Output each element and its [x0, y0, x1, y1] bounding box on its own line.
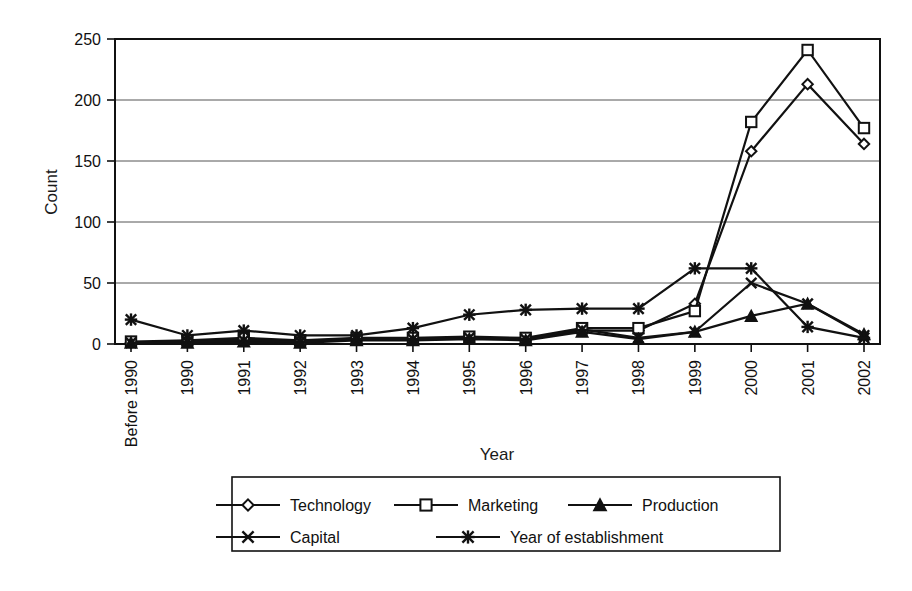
data-point-star-asterisk [745, 262, 757, 274]
x-tick-label: Before 1990 [123, 360, 140, 447]
data-point-star-asterisk [632, 302, 644, 314]
data-point-square-open [420, 499, 431, 510]
gridlines [115, 100, 880, 283]
y-tick-label: 0 [92, 336, 101, 353]
y-tick-label: 250 [74, 31, 101, 48]
data-point-star-asterisk [689, 262, 701, 274]
series-year-of-establishment [125, 262, 870, 344]
legend-label: Production [642, 497, 719, 514]
data-point-square-open [746, 117, 756, 127]
y-tick-label: 50 [83, 275, 101, 292]
legend-label: Capital [290, 529, 340, 546]
line-chart: 050100150200250 Before 19901990199119921… [0, 0, 912, 591]
y-tick-label: 150 [74, 153, 101, 170]
data-point-square-open [690, 306, 700, 316]
x-tick-label: 1992 [292, 360, 309, 396]
y-axis-title: Count [42, 169, 61, 215]
x-tick-label: 1998 [630, 360, 647, 396]
x-tick-label: 1999 [687, 360, 704, 396]
series-marketing [126, 45, 869, 347]
data-point-star-asterisk [801, 321, 813, 333]
data-point-star-asterisk [461, 530, 474, 543]
x-axis-title: Year [480, 445, 515, 464]
data-point-star-asterisk [181, 329, 193, 341]
series-path [131, 50, 864, 342]
x-tick-label: 1990 [179, 360, 196, 396]
data-point-star-asterisk [519, 304, 531, 316]
x-tick-label: 1995 [461, 360, 478, 396]
data-point-square-open [859, 123, 869, 133]
data-point-star-asterisk [858, 332, 870, 344]
x-tick-label: 1997 [574, 360, 591, 396]
x-tick-label: 2001 [800, 360, 817, 396]
data-point-star-asterisk [463, 309, 475, 321]
legend-label: Year of establishment [510, 529, 664, 546]
y-axis: 050100150200250 [74, 31, 115, 353]
data-point-star-asterisk [350, 329, 362, 341]
y-tick-label: 100 [74, 214, 101, 231]
legend-label: Technology [290, 497, 371, 514]
data-point-square-open [633, 323, 643, 333]
x-tick-label: 2000 [743, 360, 760, 396]
y-tick-label: 200 [74, 92, 101, 109]
x-tick-label: 1991 [236, 360, 253, 396]
plot-area-border [115, 39, 880, 344]
x-tick-label: 1996 [518, 360, 535, 396]
data-point-star-asterisk [238, 324, 250, 336]
x-axis: Before 199019901991199219931994199519961… [123, 344, 873, 447]
data-point-star-asterisk [576, 302, 588, 314]
series-technology [126, 79, 869, 348]
chart-figure: 050100150200250 Before 19901990199119921… [0, 0, 912, 591]
chart-legend: TechnologyMarketingProductionCapitalYear… [216, 477, 780, 551]
data-point-star-asterisk [407, 322, 419, 334]
legend-label: Marketing [468, 497, 538, 514]
series-layer [125, 45, 870, 348]
data-point-star-asterisk [294, 329, 306, 341]
x-tick-label: 1994 [405, 360, 422, 396]
x-tick-label: 2002 [856, 360, 873, 396]
data-point-square-open [802, 45, 812, 55]
data-point-star-asterisk [125, 313, 137, 325]
x-tick-label: 1993 [349, 360, 366, 396]
